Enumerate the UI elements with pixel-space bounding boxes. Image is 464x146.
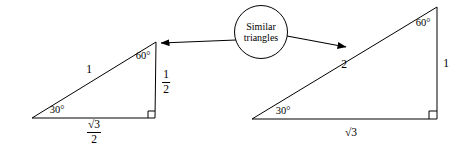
large-triangle-vertical-side-label: 1 bbox=[443, 58, 449, 70]
small-triangle-vertical-numerator: 1 bbox=[162, 69, 170, 83]
callout-line-2: triangles bbox=[244, 32, 278, 44]
small-triangle-vertical-side-label: 1 2 bbox=[162, 69, 170, 95]
small-triangle-right-angle-icon bbox=[148, 111, 155, 118]
arrow-to-large-triangle-icon bbox=[287, 36, 346, 47]
large-triangle-angle-30-label: 30° bbox=[276, 106, 291, 117]
figure-line-art bbox=[0, 0, 464, 146]
small-triangle-angle-30-label: 30° bbox=[50, 105, 65, 116]
arrow-to-small-triangle-icon bbox=[161, 40, 236, 43]
large-triangle-hypotenuse-label: 2 bbox=[341, 59, 347, 71]
large-triangle-right-angle-icon bbox=[429, 111, 437, 119]
callout-line-1: Similar bbox=[246, 21, 275, 33]
small-triangle-base-numerator: √3 bbox=[87, 119, 101, 133]
similar-triangles-callout: Similar triangles bbox=[234, 5, 288, 59]
small-triangle-base-denominator: 2 bbox=[90, 133, 98, 146]
small-triangle-base-label: √3 2 bbox=[87, 119, 101, 145]
large-triangle-angle-60-label: 60° bbox=[416, 18, 431, 29]
small-triangle-angle-60-label: 60° bbox=[136, 51, 151, 62]
similar-triangles-figure: Similar triangles 30° 60° 1 1 2 √3 2 30°… bbox=[0, 0, 464, 146]
small-triangle-hypotenuse-label: 1 bbox=[86, 64, 92, 76]
small-triangle-vertical-denominator: 2 bbox=[162, 83, 170, 96]
large-triangle-base-label: √3 bbox=[345, 127, 357, 139]
